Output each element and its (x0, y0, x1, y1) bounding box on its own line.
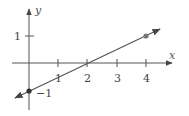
x-tick-label-3: 3 (114, 72, 121, 85)
y-axis-label: y (34, 4, 42, 17)
x-axis-label: x (169, 49, 176, 62)
y-tick-label-neg1: −1 (36, 87, 52, 100)
y-tick-label-1: 1 (14, 30, 21, 43)
line-graph: y x 1 2 3 4 1 −1 (0, 0, 189, 116)
x-tick-label-2: 2 (84, 72, 91, 85)
x-tick-label-4: 4 (143, 72, 150, 85)
point-0-neg1 (26, 88, 31, 93)
point-4-1 (143, 33, 148, 38)
